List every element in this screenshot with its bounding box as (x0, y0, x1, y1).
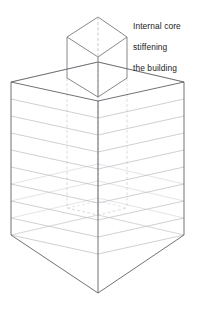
core-group (67, 17, 127, 97)
floor-slab-line (11, 99, 184, 118)
floor-slab-line (11, 235, 184, 254)
floor-slab-line (11, 184, 184, 203)
roof-silhouette-left (11, 62, 98, 82)
hidden-floor-line-4 (11, 215, 184, 235)
floor-slab-line (11, 116, 184, 135)
roof-front-left-edge (11, 82, 98, 101)
base-front-left-edge (11, 235, 98, 293)
roof-front-right-edge (98, 82, 184, 101)
floor-slab-line (11, 201, 184, 220)
floor-slab-line (11, 150, 184, 169)
floor-slab-group (11, 99, 184, 254)
annotation-line-3: the building (133, 63, 197, 73)
floor-slab-line (11, 218, 184, 237)
floor-slab-line (11, 133, 184, 152)
base-front-right-edge (98, 235, 184, 293)
annotation-line-1: Internal core (133, 21, 197, 31)
annotation-label: Internal core stiffening the building (133, 11, 197, 84)
floor-slab-line (11, 167, 184, 186)
core-top-face (67, 17, 127, 57)
diagram-canvas: Internal core stiffening the building (0, 0, 198, 309)
core-base-footprint-hidden (67, 208, 127, 215)
annotation-line-2: stiffening (133, 42, 197, 52)
core-base-footprint-back-hidden (67, 201, 127, 208)
core-roof-intersection (67, 78, 127, 97)
